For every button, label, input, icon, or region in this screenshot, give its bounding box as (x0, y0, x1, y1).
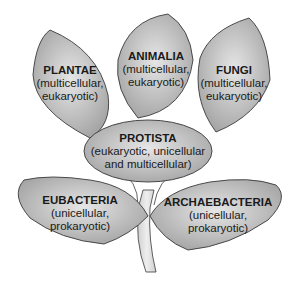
eubacteria-label: EUBACTERIA (unicellular, prokaryotic) (36, 194, 124, 233)
animalia-label: ANIMALIA (multicellular, eukaryotic) (112, 50, 200, 89)
eubacteria-title: EUBACTERIA (36, 194, 124, 207)
eubacteria-desc-line2: prokaryotic) (36, 220, 124, 233)
archaebacteria-title: ARCHAEBACTERIA (162, 196, 274, 209)
eubacteria-desc-line1: (unicellular, (36, 207, 124, 220)
kingdoms-diagram: PLANTAE (multicellular, eukaryotic) ANIM… (0, 0, 294, 284)
protista-label: PROTISTA (eukaryotic, unicellular and mu… (86, 132, 210, 171)
plantae-title: PLANTAE (26, 64, 114, 77)
plantae-desc-line2: eukaryotic) (26, 90, 114, 103)
archaebacteria-label: ARCHAEBACTERIA (unicellular, prokaryotic… (162, 196, 274, 235)
plantae-label: PLANTAE (multicellular, eukaryotic) (26, 64, 114, 103)
fungi-title: FUNGI (190, 64, 278, 77)
plantae-desc-line1: (multicellular, (26, 77, 114, 90)
stem (138, 190, 156, 272)
animalia-desc-line2: eukaryotic) (112, 76, 200, 89)
protista-desc-line2: and multicellular) (86, 158, 210, 171)
animalia-title: ANIMALIA (112, 50, 200, 63)
protista-title: PROTISTA (86, 132, 210, 145)
protista-desc-line1: (eukaryotic, unicellular (86, 145, 210, 158)
archaebacteria-desc-line2: prokaryotic) (162, 222, 274, 235)
fungi-desc-line1: (multicellular, (190, 77, 278, 90)
animalia-desc-line1: (multicellular, (112, 63, 200, 76)
fungi-label: FUNGI (multicellular, eukaryotic) (190, 64, 278, 103)
archaebacteria-desc-line1: (unicellular, (162, 209, 274, 222)
fungi-desc-line2: eukaryotic) (190, 90, 278, 103)
